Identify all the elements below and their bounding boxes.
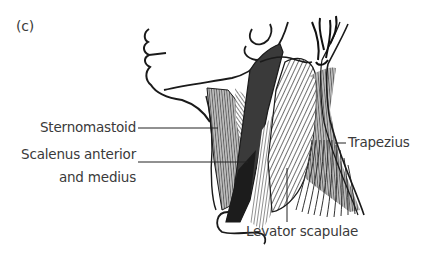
panel-label: (c): [16, 19, 34, 33]
label-scalenus-line2: and medius: [40, 171, 136, 185]
label-trapezius: Trapezius: [348, 136, 410, 150]
face-profile-outline: [144, 29, 210, 122]
jaw-line: [164, 60, 262, 90]
label-sternomastoid: Sternomastoid: [34, 121, 136, 135]
label-scalenus-line1: Scalenus anterior: [14, 148, 136, 162]
label-levator-scapulae: Levator scapulae: [246, 225, 358, 239]
occipital-branches: [312, 16, 337, 65]
